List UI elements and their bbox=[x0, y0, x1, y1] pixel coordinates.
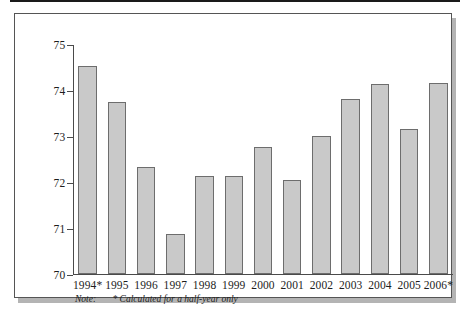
x-axis-tick-label: 1995 bbox=[105, 279, 128, 291]
y-axis-line bbox=[73, 45, 74, 275]
bar bbox=[195, 176, 213, 274]
bar bbox=[400, 129, 418, 274]
y-axis-tick-label: 75 bbox=[54, 39, 66, 51]
y-axis-tick-label: 71 bbox=[54, 223, 66, 235]
y-axis-tick-label: 74 bbox=[54, 85, 66, 97]
x-axis-tick-label: 1999 bbox=[222, 279, 245, 291]
note-text: * Calculated for a half-year only bbox=[112, 294, 237, 304]
y-axis-tick bbox=[67, 275, 73, 276]
bar bbox=[371, 84, 389, 274]
x-axis-tick-label: 2006* bbox=[424, 279, 453, 291]
bar bbox=[137, 167, 155, 274]
bar bbox=[341, 99, 359, 274]
x-axis-tick-label: 2005 bbox=[397, 279, 420, 291]
x-axis-tick-label: 1998 bbox=[193, 279, 216, 291]
x-axis-line bbox=[73, 274, 453, 275]
bar bbox=[108, 102, 126, 275]
chart-figure-frame: Out of 100 Points 757473727170 1994*1995… bbox=[14, 13, 452, 298]
x-axis-tick-label: 1996 bbox=[134, 279, 157, 291]
x-axis-tick-label: 2002 bbox=[310, 279, 333, 291]
top-rule bbox=[10, 0, 460, 2]
plot-area: 757473727170 1994*1995199619971998199920… bbox=[73, 45, 453, 275]
chart-note: Note: * Calculated for a half-year only bbox=[75, 294, 238, 304]
y-axis-tick bbox=[67, 183, 73, 184]
y-axis-tick bbox=[67, 91, 73, 92]
y-axis-tick-label: 70 bbox=[54, 269, 66, 281]
bar bbox=[312, 136, 330, 274]
x-axis-tick-label: 1994* bbox=[73, 279, 102, 291]
y-axis-tick bbox=[67, 137, 73, 138]
y-axis-tick bbox=[67, 45, 73, 46]
bar bbox=[254, 147, 272, 274]
x-axis-tick-label: 2004 bbox=[368, 279, 391, 291]
bar bbox=[225, 176, 243, 274]
bar bbox=[78, 66, 96, 274]
y-axis-tick-label: 73 bbox=[54, 131, 66, 143]
x-axis-tick-label: 1997 bbox=[164, 279, 187, 291]
bar bbox=[283, 180, 301, 274]
y-axis-tick bbox=[67, 229, 73, 230]
bar bbox=[166, 234, 184, 274]
bar bbox=[429, 83, 447, 274]
note-label: Note: bbox=[75, 294, 96, 304]
x-axis-tick-label: 2000 bbox=[251, 279, 274, 291]
x-axis-tick-label: 2001 bbox=[281, 279, 304, 291]
x-axis-tick-label: 2003 bbox=[339, 279, 362, 291]
y-axis-tick-label: 72 bbox=[54, 177, 66, 189]
